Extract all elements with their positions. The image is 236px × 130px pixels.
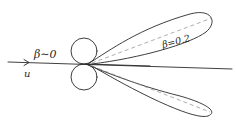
lower-forward-lobe <box>88 65 212 117</box>
radiation-pattern-diagram: β∼0 β=0.2 u <box>0 0 236 130</box>
forward-lobes-beta-02 <box>86 13 212 117</box>
velocity-label: u <box>24 68 30 79</box>
upper-dipole-circle <box>71 38 97 64</box>
upper-forward-lobe <box>88 13 212 64</box>
beta-zero-label: β∼0 <box>33 48 57 61</box>
lower-dipole-circle <box>71 64 97 90</box>
beta-02-label: β=0.2 <box>160 32 191 50</box>
